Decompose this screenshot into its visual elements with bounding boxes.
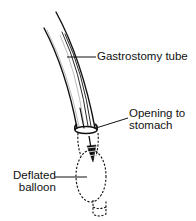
label-line: stomach — [129, 119, 185, 131]
label-line: Opening to — [129, 107, 185, 119]
label-line: balloon — [13, 181, 56, 193]
opening-leader-line — [96, 118, 128, 128]
gastrostomy-tube-label: Gastrostomy tube — [97, 50, 188, 62]
gastrostomy-tube — [44, 12, 95, 128]
label-line: Gastrostomy tube — [97, 50, 188, 62]
label-line: Deflated — [13, 169, 56, 181]
leader-lines — [55, 57, 128, 177]
tube-tip-arrow-icon — [87, 136, 96, 162]
opening-to-stomach-label: Opening to stomach — [129, 107, 185, 131]
deflated-balloon-label: Deflated balloon — [13, 169, 56, 193]
